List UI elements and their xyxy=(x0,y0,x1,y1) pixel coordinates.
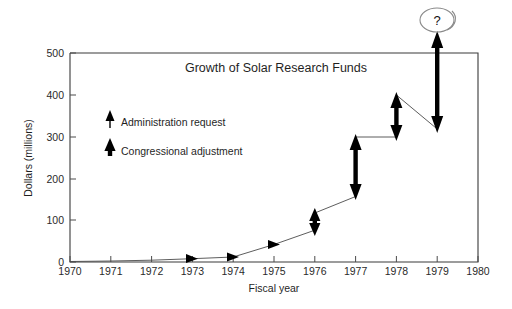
x-tick-label-1979: 1979 xyxy=(426,265,450,277)
x-tick-label-1971: 1971 xyxy=(99,265,123,277)
x-tick-label-1974: 1974 xyxy=(222,265,246,277)
y-axis-ticks xyxy=(70,53,76,262)
adjustment-head-down-1978 xyxy=(390,125,402,141)
adjustment-head-down-1977 xyxy=(350,184,362,200)
solar-research-funds-chart: 500 400 300 200 100 0 Dollars (millions)… xyxy=(0,0,512,309)
legend-thick-up-arrow-icon xyxy=(104,138,115,151)
x-axis-title: Fiscal year xyxy=(249,282,300,294)
axis-box xyxy=(70,53,478,262)
x-axis-ticks xyxy=(70,256,478,262)
x-axis-tick-labels: 1970 1971 1972 1973 1974 1975 1976 1977 … xyxy=(58,265,490,277)
y-tick-label-100: 100 xyxy=(46,214,64,226)
y-tick-label-300: 300 xyxy=(46,131,64,143)
legend-thin-up-arrow-icon xyxy=(106,110,115,121)
chart-legend: Administration request Congressional adj… xyxy=(104,110,242,157)
chart-canvas: 500 400 300 200 100 0 Dollars (millions)… xyxy=(0,0,512,309)
y-axis-title: Dollars (millions) xyxy=(22,119,34,197)
adjustment-head-down-1976 xyxy=(309,223,320,236)
question-mark-label: ? xyxy=(433,13,440,28)
legend-entry-congressional-adjustment: Congressional adjustment xyxy=(104,138,242,157)
y-tick-label-500: 500 xyxy=(46,47,64,59)
y-axis-tick-labels: 500 400 300 200 100 0 xyxy=(46,47,64,268)
x-tick-label-1975: 1975 xyxy=(262,265,286,277)
x-tick-label-1978: 1978 xyxy=(385,265,409,277)
x-tick-label-1980: 1980 xyxy=(466,265,490,277)
legend-label-administration-request: Administration request xyxy=(121,116,226,128)
y-tick-label-400: 400 xyxy=(46,89,64,101)
arrowhead-1975 xyxy=(268,240,280,249)
x-tick-label-1972: 1972 xyxy=(140,265,164,277)
adjustment-head-up-1979 xyxy=(431,31,443,48)
x-tick-label-1973: 1973 xyxy=(181,265,205,277)
chart-title: Growth of Solar Research Funds xyxy=(185,61,367,75)
plot-frame xyxy=(70,53,478,262)
adjustment-arrow-1978 xyxy=(390,92,402,141)
legend-label-congressional-adjustment: Congressional adjustment xyxy=(121,145,242,157)
legend-entry-administration-request: Administration request xyxy=(106,110,226,128)
adjustment-arrow-1977 xyxy=(350,134,362,200)
x-tick-label-1970: 1970 xyxy=(58,265,82,277)
x-tick-label-1976: 1976 xyxy=(303,265,327,277)
y-tick-label-200: 200 xyxy=(46,173,64,185)
adjustment-head-down-1979 xyxy=(431,116,443,133)
adjustment-head-up-1978 xyxy=(390,92,402,108)
question-annotation: ? xyxy=(420,8,455,32)
adjustment-head-up-1977 xyxy=(350,134,362,150)
x-tick-label-1977: 1977 xyxy=(344,265,368,277)
adjustment-head-up-1976 xyxy=(309,208,320,221)
adjustment-arrow-1979 xyxy=(431,31,443,133)
